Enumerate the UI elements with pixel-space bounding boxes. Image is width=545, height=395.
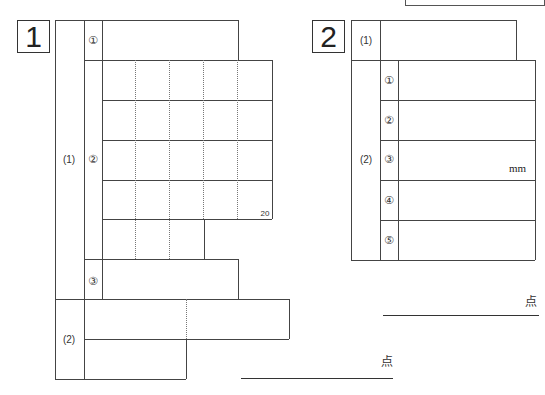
s1-item1-label: ① — [88, 34, 98, 47]
s2-1-answer[interactable] — [381, 21, 515, 59]
section-2-number-text: 2 — [320, 20, 337, 54]
s2-2-4-answer[interactable] — [399, 181, 534, 219]
s1-score-line — [241, 378, 393, 379]
s1-item1-right — [238, 20, 239, 60]
s1-char-count-marker: 20 — [261, 209, 270, 218]
s1-item3-right — [238, 259, 239, 299]
s1-2-answer-a[interactable] — [85, 300, 185, 338]
s2-score-field[interactable] — [383, 292, 521, 314]
s2-item2-label: ② — [384, 114, 394, 127]
top-partial-box — [405, 0, 545, 6]
s2-item1-label: ① — [384, 74, 394, 87]
s2-item3-unit: mm — [509, 162, 526, 174]
s2-score-line — [383, 315, 539, 316]
s2-item5-label: ⑤ — [384, 234, 394, 247]
s1-part2-label: (2) — [63, 334, 75, 345]
s2-2-2-answer[interactable] — [399, 101, 534, 139]
s1-part2-row2-right — [186, 339, 187, 379]
s1-item2-label: ② — [88, 153, 98, 166]
s1-grid-right — [272, 60, 273, 219]
s2-part2-label: (2) — [360, 154, 372, 165]
section-1-number-text: 1 — [25, 20, 42, 54]
s1-1-3-answer[interactable] — [103, 260, 237, 298]
s2-right-border — [535, 60, 536, 260]
section-1-number: 1 — [17, 20, 50, 53]
s2-item4-label: ④ — [384, 194, 394, 207]
s1-item3-label: ③ — [88, 275, 98, 288]
s1-part1-label: (1) — [63, 154, 75, 165]
s2-part1-right — [516, 20, 517, 60]
s2-bottom-border — [351, 260, 535, 261]
s1-1-1-answer[interactable] — [103, 21, 237, 59]
s2-2-5-answer[interactable] — [399, 221, 534, 259]
s1-left-border — [55, 20, 56, 380]
s2-item3-label: ③ — [384, 153, 394, 166]
s1-bottom-border — [55, 379, 186, 380]
s1-2-answer-b[interactable] — [187, 300, 288, 338]
s2-left-border — [351, 20, 352, 260]
s1-score-unit: 点 — [381, 352, 393, 369]
s2-2-1-answer[interactable] — [399, 61, 534, 99]
s1-score-field[interactable] — [241, 355, 376, 377]
s2-part1-label: (1) — [360, 35, 372, 46]
section-2-number: 2 — [312, 20, 345, 53]
s1-part2-row1-right — [289, 299, 290, 339]
s1-2-answer-c[interactable] — [85, 340, 185, 378]
s2-score-unit: 点 — [525, 292, 537, 309]
s1-1-2-answer-grid[interactable] — [103, 61, 271, 258]
